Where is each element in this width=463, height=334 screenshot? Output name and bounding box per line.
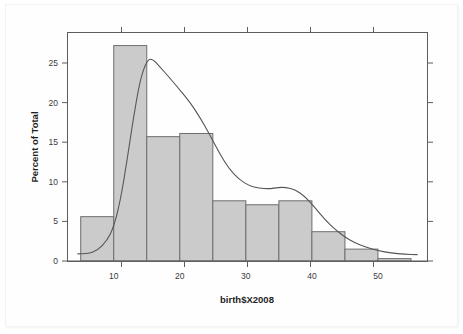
histogram-bars: [81, 46, 411, 261]
y-tick-label: 10: [49, 177, 59, 187]
x-tick-label: 50: [373, 271, 383, 281]
histogram-bar: [213, 201, 246, 261]
y-tick-label: 25: [49, 58, 59, 68]
x-tick-label: 20: [175, 271, 185, 281]
x-axis-ticks-bottom: [122, 262, 374, 268]
x-tick-label: 30: [241, 271, 251, 281]
y-axis-title: Percent of Total: [29, 111, 40, 182]
y-axis-ticks-right: [428, 63, 434, 261]
chart-svg: 0510152025 1020304050 birth$X2008 Percen…: [0, 0, 463, 334]
histogram-bar: [246, 205, 279, 261]
y-axis-ticks-left: [62, 63, 68, 261]
histogram-plot: 0510152025 1020304050 birth$X2008 Percen…: [0, 0, 463, 334]
histogram-bar: [180, 133, 213, 261]
x-tick-label: 10: [109, 271, 119, 281]
x-axis-title: birth$X2008: [220, 294, 274, 305]
y-tick-labels: 0510152025: [49, 58, 59, 266]
y-tick-label: 20: [49, 98, 59, 108]
histogram-bar: [279, 201, 312, 261]
y-tick-label: 5: [53, 216, 58, 226]
histogram-bar: [114, 46, 147, 261]
y-tick-label: 15: [49, 137, 59, 147]
x-tick-labels: 1020304050: [109, 271, 383, 281]
screenshot-root: 0510152025 1020304050 birth$X2008 Percen…: [0, 0, 463, 334]
histogram-bar: [147, 137, 180, 261]
histogram-bar: [345, 249, 378, 261]
histogram-bar: [81, 217, 114, 261]
x-tick-label: 40: [307, 271, 317, 281]
y-tick-label: 0: [53, 256, 58, 266]
x-axis-ticks-top: [122, 27, 374, 33]
histogram-bar: [312, 232, 345, 261]
